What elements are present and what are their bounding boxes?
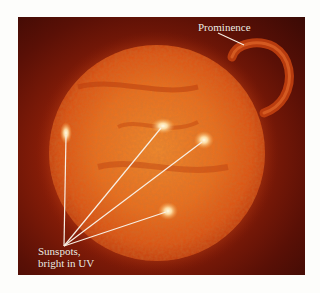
sun-uv-photograph: Prominence Sunspots, bright in UV: [18, 17, 305, 275]
sunspot-2: [151, 118, 175, 134]
sunspot-4: [158, 202, 178, 220]
prominence-label: Prominence: [198, 22, 251, 33]
sunspots-label-line2: bright in UV: [38, 258, 94, 270]
sun-illustration: [18, 17, 305, 275]
sunspots-label-line1: Sunspots,: [38, 246, 94, 258]
sunspots-label: Sunspots, bright in UV: [38, 246, 94, 269]
prominence-leader-line: [218, 33, 244, 45]
